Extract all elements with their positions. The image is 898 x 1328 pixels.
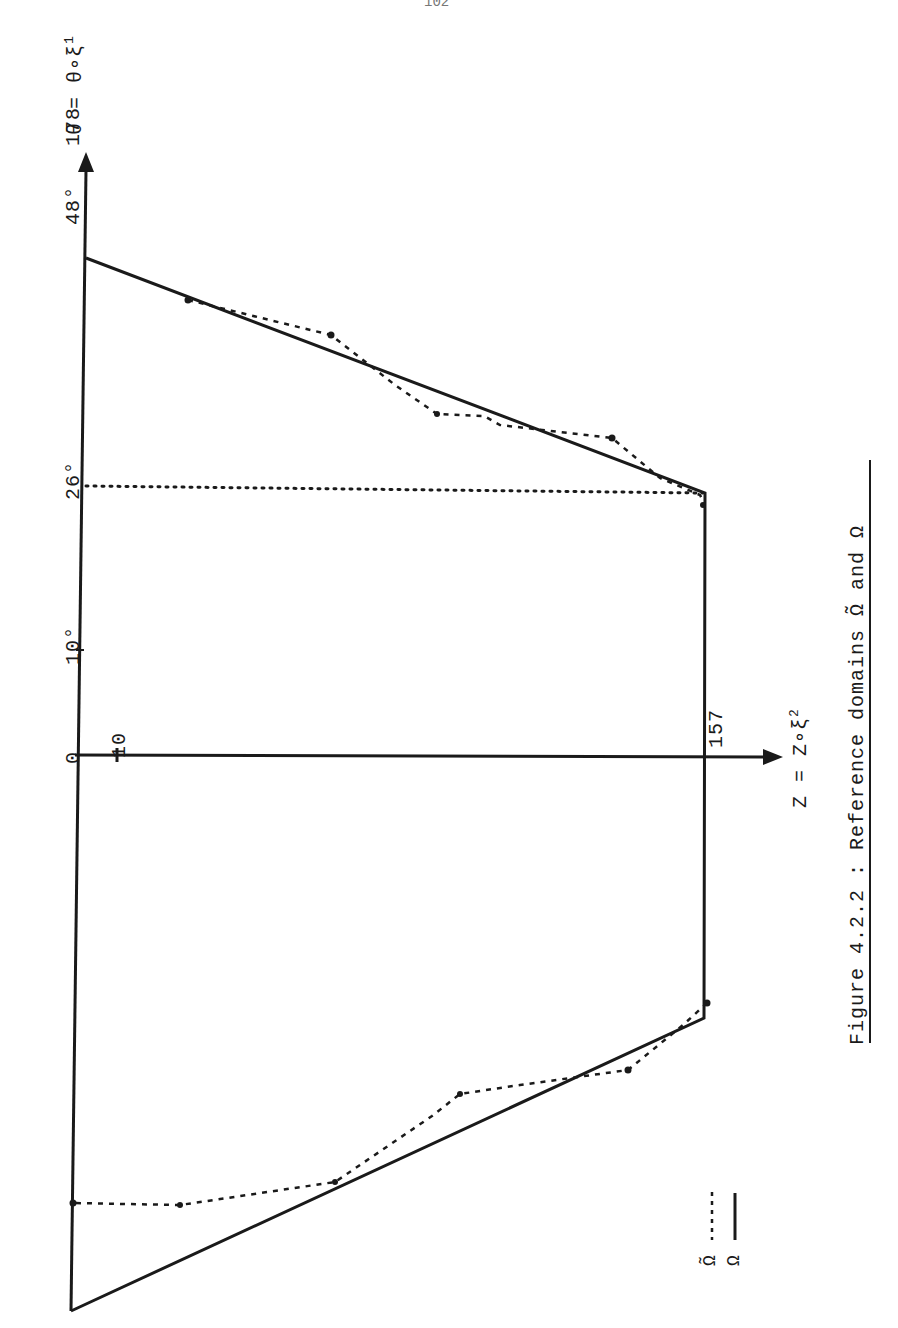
z-axis-label: Z = Z∘ξ (789, 717, 812, 808)
theta-axis-sup: 1 (62, 35, 77, 44)
theta-axis (71, 152, 94, 1311)
theta-axis-arrow-icon (78, 152, 94, 172)
theta-axis-label: θ = θ∘ξ (64, 44, 87, 135)
z-axis (75, 650, 783, 765)
theta-tick-26: 26° (62, 461, 85, 500)
theta-tick-48: 48° (62, 186, 85, 225)
caption-separator: : (846, 850, 869, 889)
z-axis-sup: 2 (787, 708, 802, 717)
omega-tilde-upper (188, 300, 705, 505)
theta-tick-10: 10° (62, 626, 85, 665)
z-axis-arrow-icon (763, 749, 783, 765)
reference-domain-figure (0, 0, 898, 1328)
legend-solid-label: Ω (724, 1254, 744, 1266)
legend-dashed-label: Ω̃ (700, 1254, 720, 1266)
theta-tick-0: 0 (62, 751, 85, 764)
omega-tilde-nodes (70, 297, 711, 1209)
z-tick-10-label: 10 (108, 732, 131, 758)
z-tick-157-label: 157 (705, 709, 728, 748)
reference-line-26deg (86, 486, 703, 493)
caption-prefix: Figure 4.2.2 (846, 889, 869, 1045)
omega-tilde-lower (73, 1003, 707, 1205)
omega-solid-boundary (71, 258, 705, 1311)
caption-text: Reference domains Ω̃ and Ω (846, 525, 869, 850)
